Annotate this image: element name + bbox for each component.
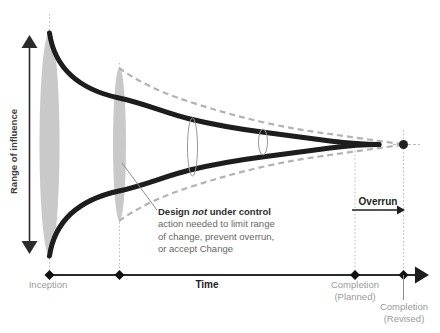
- completion-planned-line1: Completion: [322, 279, 388, 291]
- annotation-title-post: under control: [207, 206, 271, 217]
- milestone-label-inception: Inception: [16, 279, 80, 290]
- y-axis-label: Range of influence: [8, 77, 19, 227]
- uncertainty-ellipse-mid: [113, 68, 126, 221]
- convergence-dot: [399, 140, 408, 149]
- milestone-label-completion-planned: Completion (Planned): [322, 279, 388, 302]
- range-arrow-down-head-icon: [22, 241, 38, 254]
- annotation-line2: action needed to limit range: [158, 218, 284, 230]
- annotation-line4: or accept Change: [158, 243, 284, 255]
- range-arrow-up-head-icon: [22, 35, 38, 48]
- annotation-title-emphasis: not: [192, 206, 207, 217]
- annotation-title-pre: Design: [158, 206, 192, 217]
- timeline-arrow-head-icon: [415, 267, 429, 284]
- milestone-label-completion-revised: Completion (Revised): [371, 301, 437, 324]
- completion-revised-line1: Completion: [371, 301, 437, 313]
- design-control-annotation: Design not under control action needed t…: [158, 206, 284, 255]
- annotation-title: Design not under control: [158, 206, 284, 218]
- diagram-canvas: Range of influence Inception Time Comple…: [0, 0, 440, 333]
- upper-influence-curve: [50, 33, 380, 145]
- x-axis-label: Time: [175, 279, 239, 290]
- overrun-label: Overrun: [347, 196, 409, 207]
- annotation-line3: of change, prevent overrun,: [158, 231, 284, 243]
- completion-revised-line2: (Revised): [371, 313, 437, 325]
- uncertainty-ellipse-inception: [40, 33, 60, 256]
- milestone-diamond-design-freeze: [115, 270, 125, 280]
